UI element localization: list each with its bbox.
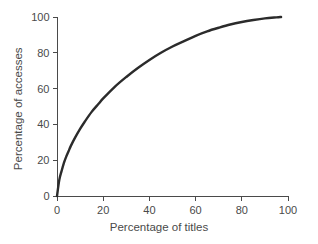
x-tick-label: 100	[279, 205, 297, 216]
y-tick-label: 80	[0, 47, 50, 58]
chart-container: 020406080100 020406080100 Percentage of …	[0, 0, 318, 244]
y-tick-label: 100	[0, 12, 50, 23]
data-series-line	[57, 17, 281, 196]
x-tick-label: 80	[236, 205, 248, 216]
y-axis-title: Percentage of accesses	[13, 19, 25, 199]
y-tick-label: 40	[0, 119, 50, 130]
x-tick-label: 40	[143, 205, 155, 216]
x-tick-label: 20	[97, 205, 109, 216]
tick-marks-group	[53, 17, 289, 201]
y-tick-label: 20	[0, 155, 50, 166]
y-tick-label: 0	[0, 191, 50, 202]
x-tick-label: 60	[189, 205, 201, 216]
y-tick-label: 60	[0, 83, 50, 94]
axes-group	[57, 17, 288, 196]
x-axis-title: Percentage of titles	[0, 222, 318, 234]
x-tick-label: 0	[54, 205, 60, 216]
